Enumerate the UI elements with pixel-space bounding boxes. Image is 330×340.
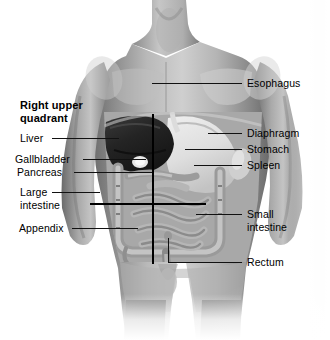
- anatomy-figure: Right upper quadrant Liver Gallbladder P…: [0, 0, 330, 340]
- leader-line-appendix: [72, 228, 138, 229]
- label-stomach: Stomach: [247, 143, 289, 156]
- leader-line-stomach: [185, 149, 242, 150]
- leader-line-rectum: [168, 262, 242, 263]
- leader-line-esophagus: [152, 83, 242, 84]
- label-gallbladder: Gallbladder: [15, 153, 70, 166]
- label-diaphragm: Diaphragm: [247, 127, 299, 140]
- label-rectum: Rectum: [247, 256, 284, 269]
- leader-line-pancreas: [74, 172, 152, 173]
- label-pancreas: Pancreas: [17, 166, 62, 179]
- label-liver: Liver: [20, 132, 43, 145]
- label-esophagus: Esophagus: [247, 77, 300, 90]
- bottom-fade: [0, 294, 330, 340]
- quadrant-horizontal-line: [90, 203, 206, 205]
- label-spleen: Spleen: [247, 159, 280, 172]
- leader-line-small-intestine: [196, 214, 242, 215]
- leader-line-gallbladder: [83, 159, 146, 160]
- leader-line-rectum-stem: [168, 238, 169, 263]
- leader-line-liver: [52, 138, 119, 139]
- leader-line-diaphragm: [208, 133, 242, 134]
- label-appendix: Appendix: [19, 222, 64, 235]
- label-small-intestine: Small intestine: [247, 208, 287, 233]
- leader-line-spleen: [194, 165, 242, 166]
- quadrant-vertical-line: [152, 114, 154, 264]
- right-fade: [288, 0, 330, 340]
- label-large-intestine: Large intestine: [20, 186, 60, 211]
- quadrant-heading: Right upper quadrant: [20, 99, 83, 125]
